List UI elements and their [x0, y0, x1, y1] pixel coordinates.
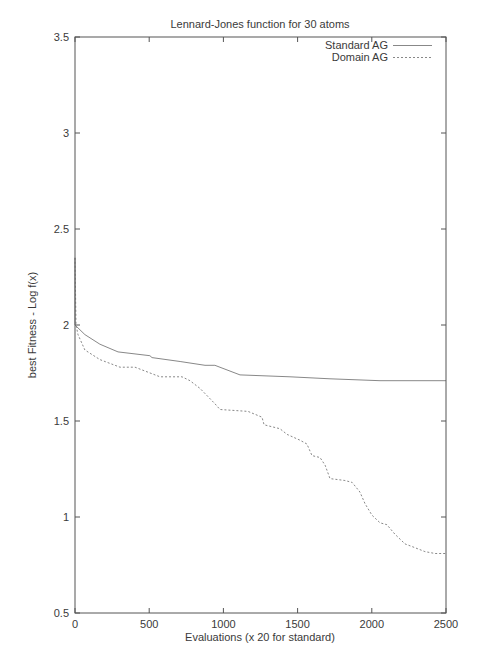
y-tick-label: 2 [63, 319, 69, 331]
y-tick-label: 2.5 [54, 223, 69, 235]
legend: Standard AG Domain AG [325, 39, 432, 63]
x-tick-label: 0 [72, 618, 78, 630]
series-domain-ag [75, 258, 446, 554]
line-chart: Lennard-Jones function for 30 atoms 0.51… [0, 0, 479, 664]
legend-label-domain: Domain AG [332, 51, 388, 63]
y-tick-label: 3 [63, 127, 69, 139]
plot-frame [75, 37, 446, 613]
y-tick-label: 1 [63, 511, 69, 523]
y-tick-label: 3.5 [54, 31, 69, 43]
plot-series [75, 258, 446, 554]
chart-title: Lennard-Jones function for 30 atoms [170, 18, 350, 30]
legend-label-standard: Standard AG [325, 39, 388, 51]
x-tick-label: 2500 [434, 618, 458, 630]
x-axis: 05001000150020002500 [72, 37, 458, 630]
y-axis-label: best Fitness - Log f(x) [26, 272, 38, 378]
y-tick-label: 0.5 [54, 607, 69, 619]
x-tick-label: 500 [140, 618, 158, 630]
x-tick-label: 1000 [211, 618, 235, 630]
y-tick-label: 1.5 [54, 415, 69, 427]
x-tick-label: 1500 [285, 618, 309, 630]
x-tick-label: 2000 [360, 618, 384, 630]
series-standard-ag [75, 258, 446, 381]
x-axis-label: Evaluations (x 20 for standard) [185, 631, 335, 643]
y-axis: 0.511.522.533.5 [54, 31, 446, 619]
